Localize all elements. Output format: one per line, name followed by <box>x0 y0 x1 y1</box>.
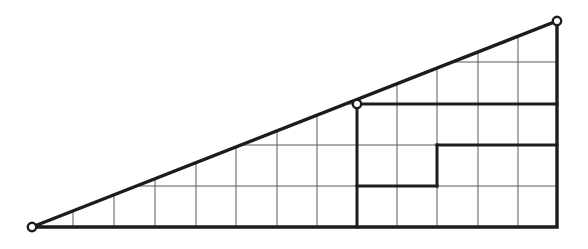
geometry-figure-container: Right triangle subdivided by a rectangul… <box>0 0 588 249</box>
vertex-marker-mid-hypotenuse-point <box>353 100 361 108</box>
vertex-marker-top-right-vertex <box>553 17 561 25</box>
bold-highlight-lines <box>357 104 557 227</box>
thin-grid-lines <box>73 36 557 227</box>
geometry-diagram <box>0 0 588 249</box>
vertex-marker-left-vertex <box>28 223 36 231</box>
